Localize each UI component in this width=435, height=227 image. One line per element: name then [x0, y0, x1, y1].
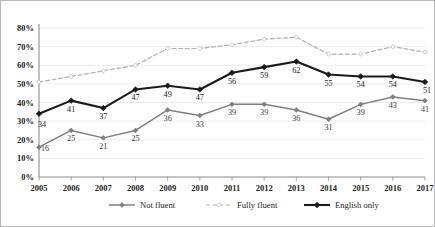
x-axis-tick-label: 2012	[256, 183, 273, 193]
data-label-english-only: 55	[324, 79, 332, 88]
legend-label-english-only: English only	[335, 200, 379, 210]
x-axis-tick-label: 2011	[224, 183, 241, 193]
legend-label-not-fluent: Not fluent	[140, 200, 176, 210]
x-axis-tick-label: 2010	[191, 183, 208, 193]
data-label-english-only: 54	[389, 80, 397, 89]
y-axis-tick-label: 10%	[17, 153, 34, 163]
data-label-not-fluent: 33	[196, 120, 204, 129]
data-point-english-only	[326, 72, 332, 78]
data-point-fully-fluent	[326, 52, 330, 56]
data-label-english-only: 34	[38, 120, 46, 129]
data-point-english-only	[390, 74, 396, 80]
data-label-english-only: 37	[99, 112, 107, 121]
x-axis-tick-label: 2006	[63, 183, 80, 193]
y-axis-tick-label: 30%	[17, 116, 34, 126]
data-point-fully-fluent	[391, 44, 395, 48]
y-axis-tick-label: 0%	[21, 172, 34, 182]
data-point-fully-fluent	[423, 50, 427, 54]
data-point-not-fluent	[294, 108, 299, 113]
data-point-not-fluent	[197, 113, 202, 118]
x-axis-tick-label: 2007	[95, 183, 113, 193]
data-label-not-fluent: 39	[228, 108, 236, 117]
data-label-not-fluent: 25	[131, 134, 139, 143]
y-axis-tick-label: 60%	[17, 60, 34, 70]
line-chart: 0%10%20%30%40%50%60%70%80%20052006200720…	[1, 1, 435, 227]
legend-marker-fully-fluent	[217, 203, 221, 207]
data-label-english-only: 49	[164, 90, 172, 99]
x-axis-tick-label: 2014	[320, 183, 338, 193]
data-label-not-fluent: 25	[67, 134, 75, 143]
data-point-english-only	[36, 111, 42, 117]
x-axis-tick-label: 2016	[384, 183, 401, 193]
data-point-fully-fluent	[101, 69, 105, 73]
data-label-not-fluent: 39	[357, 108, 365, 117]
data-point-fully-fluent	[133, 63, 137, 67]
y-axis-tick-label: 20%	[17, 135, 34, 145]
x-axis-tick-label: 2008	[127, 183, 144, 193]
data-label-not-fluent: 16	[41, 144, 49, 153]
legend-label-fully-fluent: Fully fluent	[237, 200, 278, 210]
data-label-english-only: 47	[131, 93, 139, 102]
legend-marker-english-only	[314, 202, 320, 208]
data-label-not-fluent: 36	[292, 114, 300, 123]
data-point-english-only	[358, 74, 364, 80]
data-label-not-fluent: 36	[164, 114, 172, 123]
data-point-not-fluent	[390, 95, 395, 100]
y-axis-tick-label: 70%	[17, 42, 34, 52]
data-point-fully-fluent	[69, 74, 73, 78]
data-label-english-only: 47	[196, 93, 204, 102]
y-axis-tick-label: 50%	[17, 79, 34, 89]
data-label-not-fluent: 21	[99, 142, 107, 151]
x-axis-tick-label: 2005	[31, 183, 48, 193]
data-point-fully-fluent	[358, 52, 362, 56]
data-label-not-fluent: 39	[260, 108, 268, 117]
y-axis-tick-label: 80%	[17, 23, 34, 33]
x-axis-tick-label: 2015	[352, 183, 369, 193]
data-label-not-fluent: 43	[389, 101, 397, 110]
y-axis-tick-label: 40%	[17, 98, 34, 108]
data-label-english-only: 41	[67, 105, 75, 114]
data-point-fully-fluent	[262, 37, 266, 41]
data-label-english-only: 56	[228, 77, 236, 86]
x-axis-tick-label: 2009	[159, 183, 176, 193]
chart-container: 0%10%20%30%40%50%60%70%80%20052006200720…	[0, 0, 435, 227]
data-label-not-fluent: 41	[421, 105, 429, 114]
data-label-english-only: 59	[260, 71, 268, 80]
legend-marker-not-fluent	[120, 203, 125, 208]
x-axis-tick-label: 2017	[417, 183, 435, 193]
data-label-english-only: 54	[357, 80, 365, 89]
data-label-not-fluent: 31	[324, 123, 332, 132]
x-axis-tick-label: 2013	[288, 183, 305, 193]
data-point-english-only	[294, 59, 300, 65]
data-label-english-only: 62	[292, 66, 300, 75]
data-label-english-only: 51	[423, 86, 431, 95]
data-point-fully-fluent	[294, 35, 298, 39]
